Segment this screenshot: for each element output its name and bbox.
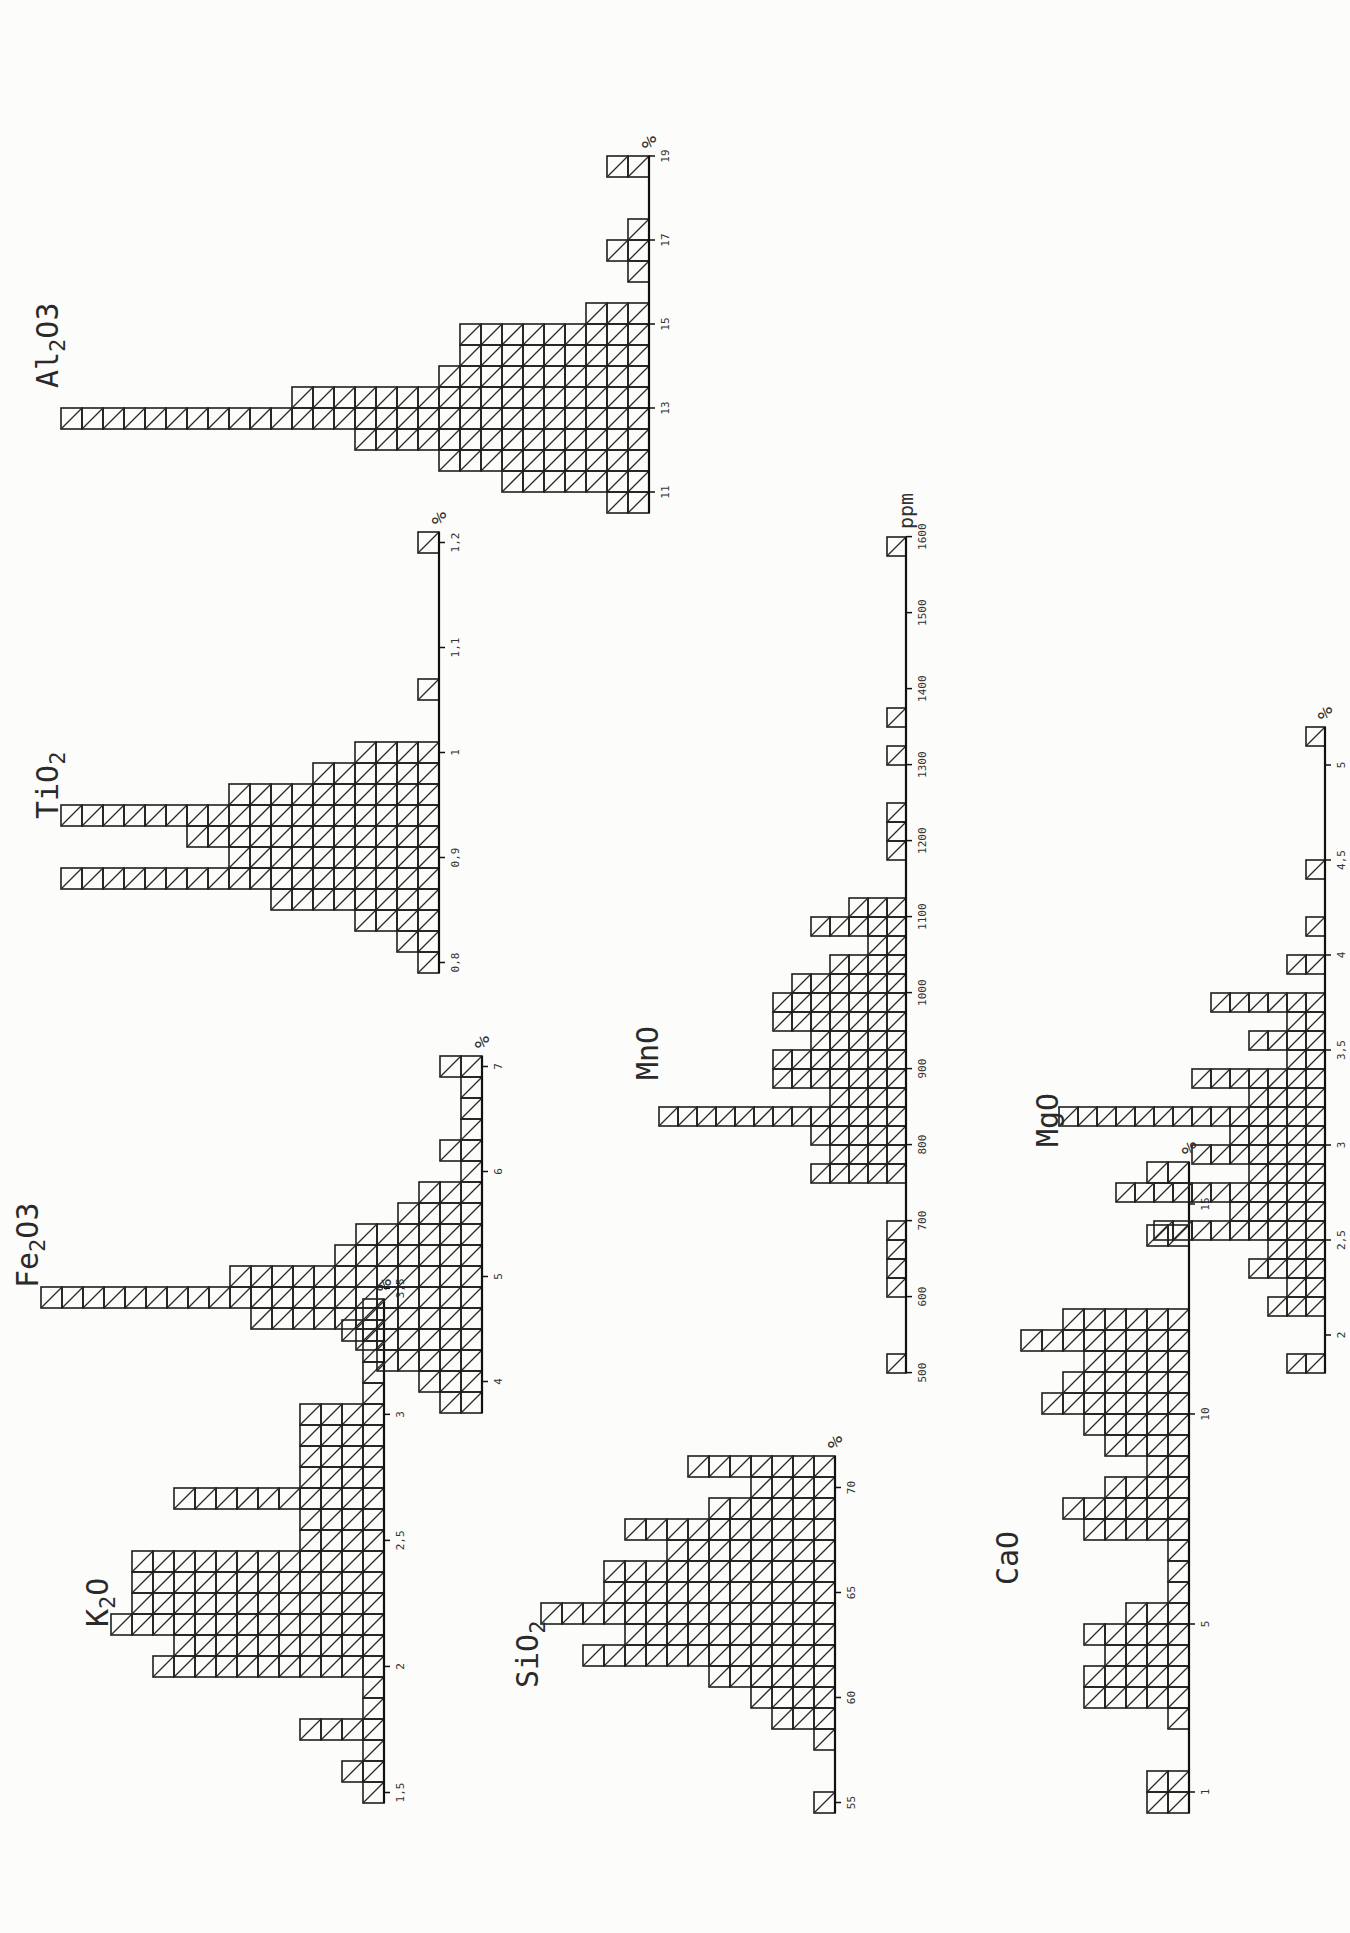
histogram-cell	[688, 1582, 709, 1603]
histogram-cell	[82, 868, 103, 889]
histogram-cell	[418, 763, 439, 784]
histogram-cell	[502, 408, 523, 429]
histogram-cell	[868, 898, 887, 917]
histogram-cell	[216, 1488, 237, 1509]
histogram-cell	[814, 1687, 835, 1708]
histogram-cell	[440, 1329, 461, 1350]
histogram-cell	[887, 1164, 906, 1183]
tick-label: 1400	[916, 675, 929, 702]
histogram-cell	[313, 763, 334, 784]
histogram-cell	[792, 974, 811, 993]
histogram-cell	[334, 805, 355, 826]
histogram-cell	[272, 1287, 293, 1308]
histogram-cell	[751, 1603, 772, 1624]
histogram-cell	[565, 408, 586, 429]
histogram-cell	[1230, 1107, 1249, 1126]
histogram-cell	[237, 1551, 258, 1572]
histogram-cell	[868, 955, 887, 974]
histogram-cell	[1306, 1183, 1325, 1202]
histogram-cell	[1168, 1561, 1189, 1582]
histogram-cell	[1084, 1666, 1105, 1687]
histogram-cell	[481, 387, 502, 408]
histogram-cell	[1084, 1414, 1105, 1435]
histogram-cell	[607, 492, 628, 513]
histogram-cell	[1268, 1145, 1287, 1164]
histogram-cell	[440, 1308, 461, 1329]
histogram-cell	[730, 1498, 751, 1519]
histogram-cell	[688, 1561, 709, 1582]
histogram-cell	[1287, 955, 1306, 974]
histogram-cell	[1306, 1145, 1325, 1164]
histogram-cell	[1287, 1259, 1306, 1278]
histogram-cell	[607, 471, 628, 492]
histogram-cell	[667, 1561, 688, 1582]
histogram-cell	[300, 1614, 321, 1635]
histogram-cell	[1306, 1164, 1325, 1183]
histogram-cell	[229, 805, 250, 826]
histogram-cell	[887, 1088, 906, 1107]
histogram-cell	[342, 1593, 363, 1614]
histogram-cell	[419, 1224, 440, 1245]
histogram-cell	[187, 408, 208, 429]
histogram-cell	[1211, 993, 1230, 1012]
histogram-cell	[209, 1287, 230, 1308]
histogram-cell	[1147, 1393, 1168, 1414]
histogram-cell	[688, 1645, 709, 1666]
histogram-cell	[293, 1308, 314, 1329]
histogram-cell	[646, 1624, 667, 1645]
histogram-cell	[1268, 1240, 1287, 1259]
histogram-cell	[1306, 1354, 1325, 1373]
histogram-cell	[461, 1371, 482, 1392]
histogram-cell	[625, 1561, 646, 1582]
histogram-cell	[1168, 1393, 1189, 1414]
histogram-cell	[104, 1287, 125, 1308]
histogram-cell	[334, 387, 355, 408]
histogram-cell	[1168, 1792, 1189, 1813]
histogram-cell	[814, 1456, 835, 1477]
histogram-cell	[887, 1145, 906, 1164]
histogram-cell	[502, 429, 523, 450]
histogram-cell	[1192, 1107, 1211, 1126]
tick-label: 0,9	[449, 848, 462, 868]
histogram-cell	[292, 408, 313, 429]
histogram-cell	[1168, 1666, 1189, 1687]
histogram-cell	[830, 1050, 849, 1069]
histogram-cell	[279, 1635, 300, 1656]
histogram-cell	[258, 1593, 279, 1614]
histogram-cell	[300, 1425, 321, 1446]
histogram-cell	[250, 868, 271, 889]
histogram-cell	[132, 1593, 153, 1614]
histogram-cell	[419, 1350, 440, 1371]
histogram-cell	[565, 345, 586, 366]
histogram-cell	[1287, 1183, 1306, 1202]
histogram-cell	[709, 1645, 730, 1666]
histogram-cell	[814, 1498, 835, 1519]
histogram-cell	[376, 387, 397, 408]
histogram-cell	[376, 805, 397, 826]
histogram-cell	[1211, 1107, 1230, 1126]
histogram-cell	[419, 1329, 440, 1350]
histogram-cell	[356, 1245, 377, 1266]
histogram-cell	[300, 1719, 321, 1740]
histogram-cell	[461, 1203, 482, 1224]
histogram-cell	[314, 1266, 335, 1287]
histogram-cell	[814, 1624, 835, 1645]
histogram-cell	[174, 1656, 195, 1677]
histogram-cell	[830, 1126, 849, 1145]
histogram-cell	[229, 408, 250, 429]
tick-label: 1,2	[449, 533, 462, 553]
histogram-cell	[868, 936, 887, 955]
histogram-cell	[628, 366, 649, 387]
histogram-cell	[237, 1488, 258, 1509]
histogram-cell	[1230, 1183, 1249, 1202]
histogram-cell	[773, 1012, 792, 1031]
histogram-cell	[461, 1350, 482, 1371]
histogram-cell	[1249, 1145, 1268, 1164]
histogram-cell	[335, 1287, 356, 1308]
histogram-cell	[709, 1666, 730, 1687]
histogram-cell	[363, 1467, 384, 1488]
histogram-cell	[363, 1425, 384, 1446]
histogram-cell	[321, 1593, 342, 1614]
histogram-cell	[811, 1107, 830, 1126]
histogram-cell	[355, 387, 376, 408]
